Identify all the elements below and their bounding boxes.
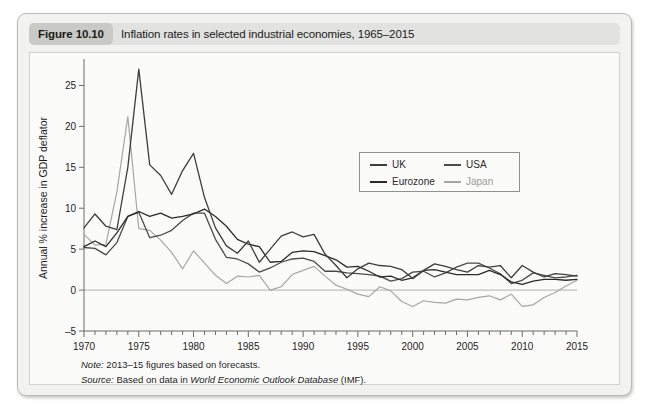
x-tick-label: 1990	[292, 341, 315, 352]
figure-caption: Inflation rates in selected industrial e…	[121, 23, 414, 45]
x-tick-label: 1970	[73, 341, 96, 352]
legend-swatch-japan	[444, 181, 461, 183]
legend-item-usa: USA	[444, 156, 487, 173]
source-prefix: Based on data in	[114, 374, 191, 385]
source-line: Source: Based on data in World Economic …	[81, 374, 366, 385]
x-tick-label: 1980	[182, 341, 205, 352]
figure-header-bar: Figure 10.10 Inflation rates in selected…	[29, 23, 620, 45]
y-tick-label: 20	[65, 121, 77, 132]
legend-label-eurozone: Eurozone	[392, 176, 435, 187]
figure-card: Figure 10.10 Inflation rates in selected…	[17, 13, 632, 396]
chart-legend: UKUSAEurozoneJapan	[359, 152, 520, 192]
legend-item-eurozone: Eurozone	[370, 173, 435, 190]
x-tick-label: 2005	[456, 341, 479, 352]
series-line-japan	[84, 117, 577, 307]
y-tick-label: 0	[70, 285, 76, 296]
figure-footnotes: Note: 2013–15 figures based on forecasts…	[81, 359, 366, 389]
inflation-line-chart: –505101520251970197519801985199019952000…	[30, 53, 619, 384]
plot-panel: –505101520251970197519801985199019952000…	[29, 52, 620, 385]
source-label: Source:	[81, 374, 114, 385]
series-line-usa	[84, 212, 577, 283]
y-tick-label: 5	[70, 244, 76, 255]
note-line: Note: 2013–15 figures based on forecasts…	[81, 359, 366, 370]
y-tick-label: –5	[65, 326, 77, 337]
legend-label-usa: USA	[466, 159, 487, 170]
legend-item-japan: Japan	[444, 173, 493, 190]
y-tick-label: 25	[65, 80, 77, 91]
legend-swatch-uk	[370, 164, 387, 166]
legend-label-japan: Japan	[466, 176, 493, 187]
note-text: 2013–15 figures based on forecasts.	[104, 359, 260, 370]
y-tick-label: 15	[65, 162, 77, 173]
series-line-eurozone	[84, 209, 577, 284]
legend-swatch-usa	[444, 164, 461, 166]
y-tick-label: 10	[65, 203, 77, 214]
source-suffix: (IMF).	[338, 374, 366, 385]
legend-swatch-eurozone	[370, 181, 387, 183]
x-tick-label: 1985	[237, 341, 260, 352]
x-tick-label: 2010	[511, 341, 534, 352]
note-label: Note:	[81, 359, 104, 370]
legend-item-uk: UK	[370, 156, 406, 173]
figure-number-badge: Figure 10.10	[29, 23, 113, 45]
source-database-title: World Economic Outlook Database	[190, 374, 338, 385]
x-tick-label: 2015	[566, 341, 589, 352]
legend-label-uk: UK	[392, 159, 406, 170]
x-tick-label: 1995	[347, 341, 370, 352]
x-tick-label: 2000	[402, 341, 425, 352]
x-tick-label: 1975	[128, 341, 151, 352]
y-axis-title: Annual % increase in GDP deflator	[37, 116, 49, 279]
